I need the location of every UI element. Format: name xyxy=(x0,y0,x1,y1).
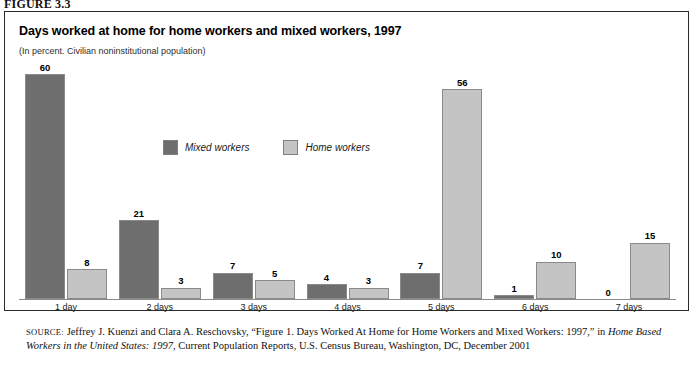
bar-group: 110 xyxy=(488,60,582,299)
x-axis-tick-label: 2 days xyxy=(113,302,207,312)
bar-value-label: 10 xyxy=(551,250,562,260)
bar-value-label: 0 xyxy=(605,288,610,298)
bar-group: 608 xyxy=(19,60,113,299)
bar-mixed[interactable] xyxy=(25,74,65,299)
source-text-part2: , Current Population Reports, U.S. Censu… xyxy=(173,340,530,351)
x-axis-tick-label: 6 days xyxy=(488,302,582,312)
bar-column: 1 xyxy=(494,60,534,299)
x-axis-tick-label: 5 days xyxy=(394,302,488,312)
bar-value-label: 56 xyxy=(457,78,468,88)
bar-column: 8 xyxy=(67,60,107,299)
bar-column: 3 xyxy=(349,60,389,299)
source-text-part1: Jeffrey J. Kuenzi and Clara A. Reschovsk… xyxy=(64,326,608,337)
x-axis-tick-label: 4 days xyxy=(301,302,395,312)
bar-column: 56 xyxy=(442,60,482,299)
x-axis-tick-label: 1 day xyxy=(19,302,113,312)
bar-value-label: 4 xyxy=(324,273,329,283)
bar-column: 3 xyxy=(161,60,201,299)
plot-area: 6082137543756110015 xyxy=(19,60,676,300)
bar-column: 7 xyxy=(213,60,253,299)
bar-mixed[interactable] xyxy=(213,273,253,299)
bar-column: 4 xyxy=(307,60,347,299)
bar-groups: 6082137543756110015 xyxy=(19,60,676,299)
bar-value-label: 1 xyxy=(512,284,517,294)
bar-mixed[interactable] xyxy=(400,273,440,299)
bar-group: 75 xyxy=(207,60,301,299)
bar-home[interactable] xyxy=(630,243,670,299)
bar-column: 60 xyxy=(25,60,65,299)
bar-column: 21 xyxy=(119,60,159,299)
bar-home[interactable] xyxy=(536,262,576,300)
bar-home[interactable] xyxy=(161,288,201,299)
bar-value-label: 21 xyxy=(133,209,144,219)
bar-group: 43 xyxy=(301,60,395,299)
bar-group: 015 xyxy=(582,60,676,299)
bar-home[interactable] xyxy=(442,89,482,299)
bar-value-label: 3 xyxy=(178,276,183,286)
bar-home[interactable] xyxy=(67,269,107,299)
source-note: SOURCE: Jeffrey J. Kuenzi and Clara A. R… xyxy=(26,325,676,353)
bar-mixed[interactable] xyxy=(307,284,347,299)
bar-value-label: 60 xyxy=(40,63,51,73)
figure-panel: Days worked at home for home workers and… xyxy=(4,11,689,311)
bar-value-label: 15 xyxy=(645,231,656,241)
bar-value-label: 8 xyxy=(84,258,89,268)
bar-group: 756 xyxy=(394,60,488,299)
bar-column: 5 xyxy=(255,60,295,299)
bar-mixed[interactable] xyxy=(119,220,159,299)
bar-value-label: 3 xyxy=(366,276,371,286)
chart-title: Days worked at home for home workers and… xyxy=(19,24,401,38)
bar-value-label: 5 xyxy=(272,269,277,279)
chart-subtitle: (In percent. Civilian noninstitutional p… xyxy=(19,46,206,56)
bar-home[interactable] xyxy=(349,288,389,299)
bar-group: 213 xyxy=(113,60,207,299)
source-prefix: SOURCE: xyxy=(26,327,64,337)
bar-column: 15 xyxy=(630,60,670,299)
bar-column: 0 xyxy=(588,60,628,299)
x-axis-line xyxy=(19,299,676,300)
bar-column: 7 xyxy=(400,60,440,299)
bar-value-label: 7 xyxy=(418,261,423,271)
bar-home[interactable] xyxy=(255,280,295,299)
bar-column: 10 xyxy=(536,60,576,299)
bar-value-label: 7 xyxy=(230,261,235,271)
x-axis-labels: 1 day2 days3 days4 days5 days6 days7 day… xyxy=(19,302,676,312)
x-axis-tick-label: 7 days xyxy=(582,302,676,312)
x-axis-tick-label: 3 days xyxy=(207,302,301,312)
